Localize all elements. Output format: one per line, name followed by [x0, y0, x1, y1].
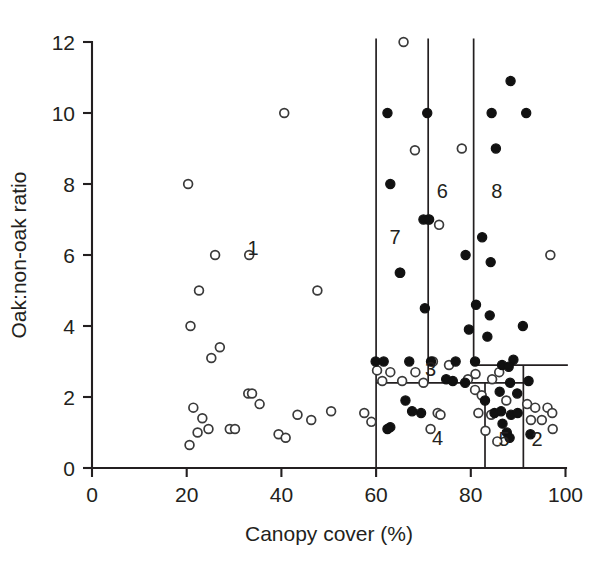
data-point-filled	[491, 144, 500, 153]
axes	[92, 42, 566, 468]
data-point-open	[502, 396, 511, 405]
y-axis-ticks: 024681012	[52, 31, 92, 480]
data-point-filled	[383, 424, 392, 433]
y-tick-label: 10	[52, 102, 75, 125]
data-point-open	[195, 286, 204, 295]
data-point-filled	[524, 376, 533, 385]
data-point-open	[531, 403, 540, 412]
data-point-filled	[478, 233, 487, 242]
data-point-filled	[379, 357, 388, 366]
data-point-open	[184, 180, 193, 189]
data-point-open	[367, 417, 376, 426]
data-point-filled	[471, 300, 480, 309]
data-point-open	[215, 343, 224, 352]
data-point-open	[378, 377, 387, 386]
data-point-filled	[513, 408, 522, 417]
x-tick-label: 40	[270, 483, 293, 506]
y-tick-label: 2	[63, 386, 75, 409]
y-tick-label: 12	[52, 31, 75, 54]
x-tick-label: 60	[364, 483, 387, 506]
data-point-open	[313, 286, 322, 295]
data-point-open	[248, 389, 257, 398]
data-point-filled	[513, 389, 522, 398]
data-point-filled	[483, 332, 492, 341]
data-point-open	[419, 378, 428, 387]
y-tick-label: 8	[63, 173, 75, 196]
data-point-open	[474, 409, 483, 418]
data-point-filled	[486, 258, 495, 267]
data-point-filled	[498, 419, 507, 428]
data-point-filled	[407, 407, 416, 416]
data-point-open	[373, 366, 382, 375]
x-axis-ticks: 020406080100	[86, 468, 583, 506]
data-points-filled-circle	[371, 76, 535, 442]
data-point-open	[548, 409, 557, 418]
y-tick-label: 4	[63, 315, 75, 338]
data-point-open	[198, 414, 207, 423]
data-point-open	[398, 377, 407, 386]
data-point-filled	[461, 250, 470, 259]
data-point-filled	[425, 215, 434, 224]
data-point-open	[327, 407, 336, 416]
data-point-open	[457, 144, 466, 153]
data-point-open	[211, 251, 220, 260]
data-point-filled	[495, 387, 504, 396]
data-point-open	[255, 400, 264, 409]
data-point-filled	[487, 108, 496, 117]
y-tick-label: 0	[63, 457, 75, 480]
y-axis-title: Oak:non-oak ratio	[7, 172, 30, 339]
data-point-open	[280, 109, 289, 118]
region-label-2: 2	[532, 428, 543, 450]
data-point-filled	[485, 311, 494, 320]
x-tick-label: 100	[548, 483, 583, 506]
data-point-filled	[522, 108, 531, 117]
data-point-filled	[518, 321, 527, 330]
region-label-8: 8	[491, 180, 502, 202]
data-point-filled	[480, 396, 489, 405]
data-point-filled	[401, 396, 410, 405]
x-tick-label: 80	[459, 483, 482, 506]
x-tick-label: 0	[86, 483, 98, 506]
data-point-open	[527, 416, 536, 425]
region-label-3: 3	[425, 358, 436, 380]
plot-canvas: 020406080100 024681012 17683452 Canopy c…	[0, 0, 606, 568]
data-point-open	[293, 410, 302, 419]
data-point-open	[360, 409, 369, 418]
region-label-5: 5	[498, 428, 509, 450]
data-point-filled	[386, 179, 395, 188]
data-point-open	[435, 220, 444, 229]
region-label-1: 1	[247, 237, 258, 259]
data-point-open	[185, 441, 194, 450]
data-point-open	[546, 251, 555, 260]
data-point-filled	[497, 407, 506, 416]
scatter-plot-figure: 020406080100 024681012 17683452 Canopy c…	[0, 0, 606, 568]
data-point-open	[399, 38, 408, 47]
data-point-filled	[405, 357, 414, 366]
data-point-open	[193, 428, 202, 437]
data-point-filled	[448, 376, 457, 385]
data-point-open	[189, 403, 198, 412]
data-point-open	[231, 425, 240, 434]
data-point-open	[548, 425, 557, 434]
data-point-open	[186, 322, 195, 331]
data-point-open	[281, 433, 290, 442]
region-label-4: 4	[432, 427, 443, 449]
data-point-open	[411, 146, 420, 155]
data-point-filled	[464, 325, 473, 334]
data-point-filled	[423, 108, 432, 117]
data-point-filled	[420, 304, 429, 313]
x-axis-title: Canopy cover (%)	[245, 522, 413, 545]
data-point-open	[307, 416, 316, 425]
data-point-filled	[504, 362, 513, 371]
data-point-filled	[506, 76, 515, 85]
data-point-filled	[416, 408, 425, 417]
data-point-filled	[470, 357, 479, 366]
data-point-open	[488, 375, 497, 384]
region-label-7: 7	[389, 226, 400, 248]
data-point-filled	[506, 378, 515, 387]
data-point-filled	[451, 357, 460, 366]
data-point-open	[481, 426, 490, 435]
data-point-open	[436, 410, 445, 419]
data-point-open	[204, 425, 213, 434]
data-point-filled	[383, 108, 392, 117]
